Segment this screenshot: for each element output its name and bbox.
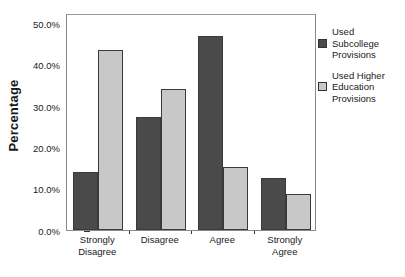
x-tick-mark xyxy=(129,231,130,234)
y-tick-label: 20.0% xyxy=(33,142,60,154)
bar xyxy=(161,89,186,230)
y-tick-label: 50.0% xyxy=(33,18,60,30)
x-tick-mark xyxy=(191,231,192,234)
bar xyxy=(136,117,161,230)
legend-label: UsedSubcollegeProvisions xyxy=(332,26,379,61)
legend-label: Used HigherEducationProvisions xyxy=(332,70,385,105)
plot-frame xyxy=(66,14,316,231)
y-axis-ticks: 0.0%10.0%20.0%30.0%40.0%50.0% xyxy=(24,0,60,277)
x-tick-label: Disagree xyxy=(129,234,192,246)
x-tick-label: StronglyDisagree xyxy=(66,234,129,257)
legend-swatch-icon xyxy=(318,82,327,91)
bar xyxy=(98,50,123,230)
legend-entry: Used HigherEducationProvisions xyxy=(318,70,404,105)
y-tick-label: 0.0% xyxy=(38,225,60,237)
legend-entry: UsedSubcollegeProvisions xyxy=(318,26,404,61)
x-axis-labels: StronglyDisagreeDisagreeAgreeStronglyAgr… xyxy=(66,234,316,274)
legend-swatch-icon xyxy=(318,39,327,48)
bar xyxy=(198,36,223,230)
x-tick-label: Agree xyxy=(191,234,254,246)
plot-area xyxy=(67,15,315,230)
bar xyxy=(261,178,286,230)
y-tick-label: 40.0% xyxy=(33,60,60,72)
y-tick-label: 30.0% xyxy=(33,101,60,113)
y-axis-title-label: Percentage xyxy=(6,79,21,151)
x-tick-mark xyxy=(254,231,255,234)
bar xyxy=(73,172,98,230)
bar xyxy=(223,167,248,230)
x-tick-label: StronglyAgree xyxy=(254,234,317,257)
chart-legend: UsedSubcollegeProvisionsUsed HigherEduca… xyxy=(318,26,404,113)
y-tick-label: 10.0% xyxy=(33,184,60,196)
y-axis-title: Percentage xyxy=(2,0,24,231)
bar xyxy=(286,194,311,230)
